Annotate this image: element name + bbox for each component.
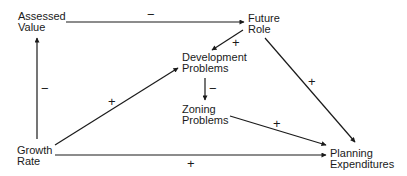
sign-zoning-to-planning: + — [273, 117, 281, 130]
sign-development-to-zoning: − — [209, 82, 217, 95]
sign-growth-to-development: + — [108, 95, 116, 108]
node-label-line2: Problems — [182, 115, 228, 126]
sign-assessed-to-future: − — [147, 8, 155, 21]
sign-future-to-development: + — [232, 36, 240, 49]
node-zoning-problems: Zoning Problems — [182, 104, 228, 126]
node-label-line2: Problems — [182, 63, 247, 74]
edge-growth-rate-to-development-problems — [55, 68, 178, 145]
node-development-problems: Development Problems — [182, 52, 247, 74]
node-planning-expenditures: Planning Expenditures — [330, 148, 394, 170]
sign-growth-to-assessed: − — [41, 82, 49, 95]
node-label-line2: Value — [18, 22, 66, 33]
node-label-line2: Rate — [17, 156, 52, 167]
node-label-line2: Role — [248, 24, 280, 35]
sign-future-to-planning: + — [308, 75, 316, 88]
node-assessed-value: Assessed Value — [18, 11, 66, 33]
node-future-role: Future Role — [248, 13, 280, 35]
node-label-line2: Expenditures — [330, 159, 394, 170]
causal-loop-diagram: Assessed Value Future Role Development P… — [0, 0, 407, 176]
sign-growth-to-planning: + — [187, 157, 195, 170]
node-growth-rate: Growth Rate — [17, 145, 52, 167]
